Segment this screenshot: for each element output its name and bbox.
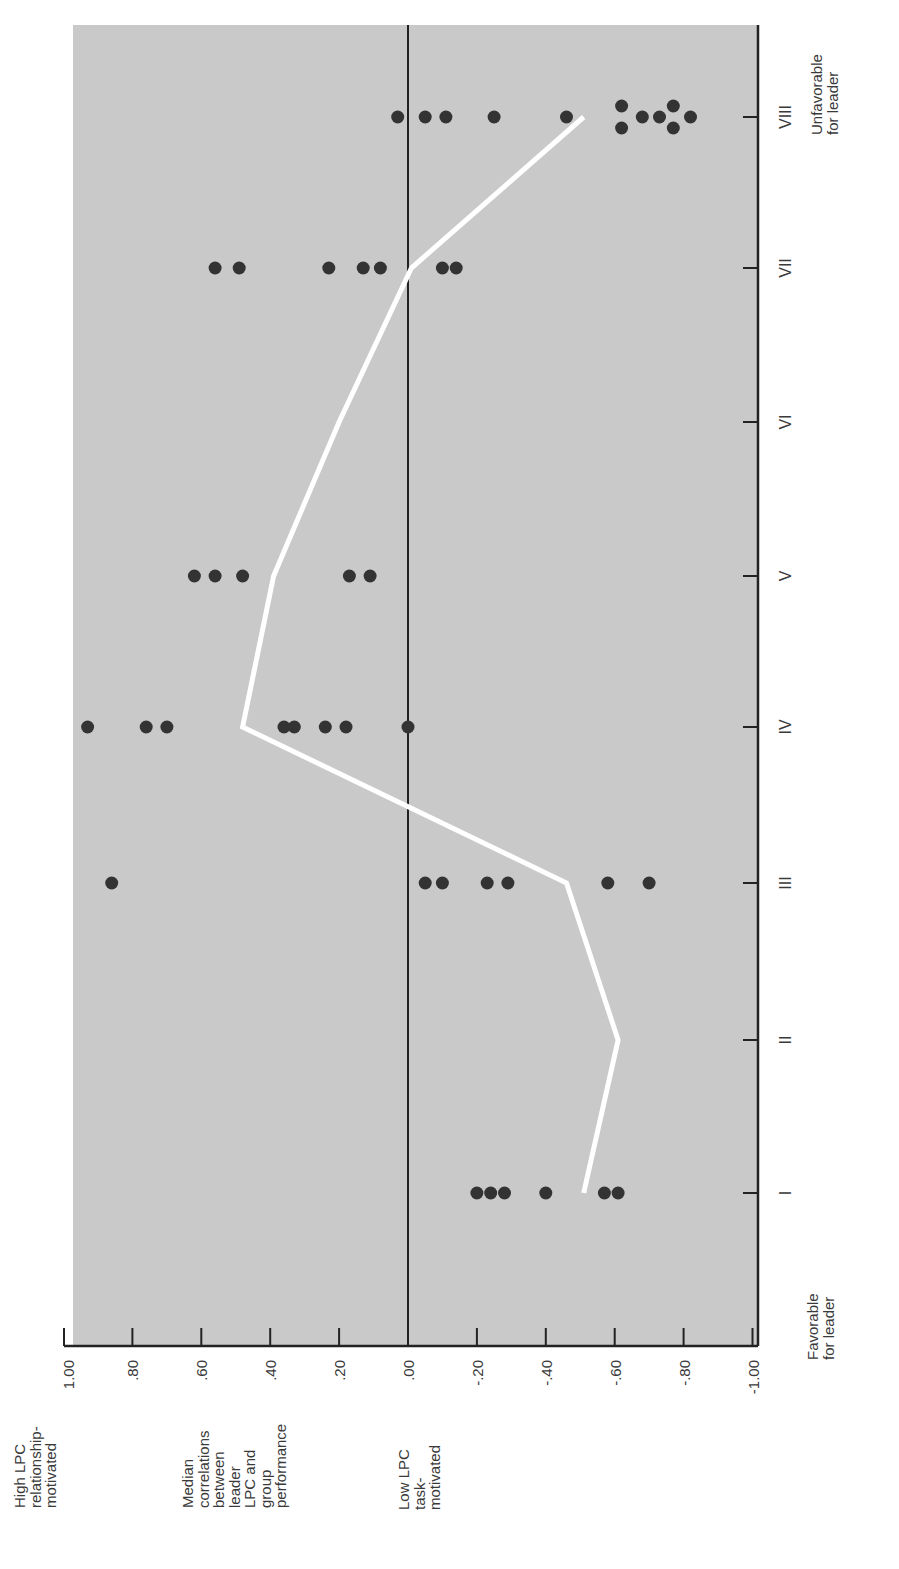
data-point [636,111,649,124]
label-unfavorable-for-leader: Unfavorable [808,54,825,135]
octant-label-v: V [777,570,794,581]
label-high-lpc: High LPC [11,1444,28,1508]
data-point [615,122,628,135]
data-point [488,111,501,124]
data-point [209,262,222,275]
octant-label-viii: VIII [777,105,794,129]
data-point [419,111,432,124]
octant-label-vi: VI [777,414,794,429]
data-point [560,111,573,124]
data-point [357,262,370,275]
data-point [374,262,387,275]
correlation-tick-label: .80 [124,1360,141,1381]
correlation-tick-labels: 1.00.80.60.40.20.00-.20-.40-.60-.80-1.00 [60,1360,762,1394]
data-point [450,262,463,275]
data-point [288,721,301,734]
data-point [340,721,353,734]
data-point [105,877,118,890]
data-point [364,570,377,583]
label-low-lpc: motivated [426,1445,443,1510]
label-high-lpc: relationship- [27,1426,44,1508]
correlation-tick-label: -.40 [538,1360,555,1386]
data-point [615,100,628,113]
label-median-correlations: performance [272,1424,289,1508]
data-point [209,570,222,583]
data-point [684,111,697,124]
data-point [343,570,356,583]
correlation-tick-label: -.60 [607,1360,624,1386]
correlation-tick-label: .00 [400,1360,417,1381]
data-point [501,877,514,890]
label-median-correlations: correlations [195,1430,212,1508]
octant-label-ii: II [777,1036,794,1045]
correlation-tick-label: .20 [331,1360,348,1381]
label-median-correlations: group [257,1470,274,1508]
plot-background [73,25,758,1346]
label-median-correlations: Median [179,1459,196,1508]
data-point [667,100,680,113]
data-point [236,570,249,583]
label-favorable-for-leader: for leader [820,1297,837,1360]
data-point [419,877,432,890]
data-point [498,1187,511,1200]
data-point [470,1187,483,1200]
label-median-correlations: LPC and [241,1450,258,1508]
data-point [436,877,449,890]
label-unfavorable-for-leader: for leader [824,72,841,135]
octant-label-iv: IV [777,719,794,734]
label-median-correlations: between [210,1451,227,1508]
data-point [140,721,153,734]
data-point [439,111,452,124]
data-point [436,262,449,275]
data-point [598,1187,611,1200]
data-point [484,1187,497,1200]
data-point [402,721,415,734]
octant-label-vii: VII [777,258,794,278]
data-point [160,721,173,734]
data-point [667,122,680,135]
correlation-tick-label: 1.00 [60,1360,77,1389]
correlation-tick-label: .60 [193,1360,210,1381]
correlation-tick-label: .40 [262,1360,279,1381]
data-point [81,721,94,734]
octant-label-iii: III [777,876,794,889]
octant-labels: IIIIIIIVVVIVIIVIII [777,105,794,1195]
octant-label-i: I [777,1191,794,1195]
data-point [391,111,404,124]
correlation-tick-label: -.20 [469,1360,486,1386]
chart: 1.00.80.60.40.20.00-.20-.40-.60-.80-1.00… [0,0,899,1569]
data-point [322,262,335,275]
correlation-tick-label: -1.00 [745,1360,762,1394]
correlation-tick-label: -.80 [676,1360,693,1386]
label-favorable-for-leader: Favorable [804,1293,821,1360]
data-point [612,1187,625,1200]
label-median-correlations: leader [226,1466,243,1508]
data-point [643,877,656,890]
data-point [601,877,614,890]
data-point [233,262,246,275]
data-point [188,570,201,583]
label-low-lpc: task- [411,1477,428,1510]
label-high-lpc: motivated [42,1443,59,1508]
data-point [481,877,494,890]
data-point [653,111,666,124]
data-point [319,721,332,734]
label-low-lpc: Low LPC [395,1449,412,1510]
data-point [539,1187,552,1200]
